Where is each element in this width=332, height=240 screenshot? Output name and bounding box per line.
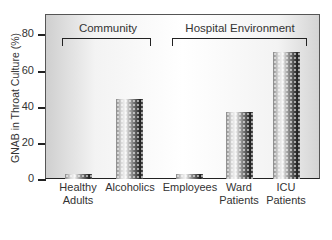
x-label-alcoholics: Alcoholics: [100, 181, 160, 194]
bar-icu-patients: [273, 52, 300, 179]
bar-alcoholics: [116, 99, 143, 179]
y-tick-label-80: 80: [14, 27, 34, 39]
group-bracket-community: [62, 38, 151, 46]
group-bracket-hospital: [172, 38, 307, 46]
x-label-icu-patients: ICU Patients: [256, 181, 316, 207]
bar-ward-patients: [226, 112, 253, 179]
y-tick-label-40: 40: [14, 100, 34, 112]
bar-employees: [176, 174, 203, 179]
y-tick-label-20: 20: [14, 136, 34, 148]
x-label-healthy-adults: Healthy Adults: [48, 181, 108, 207]
group-label-community: Community: [78, 22, 138, 34]
bar-healthy-adults: [65, 174, 92, 179]
y-tick-label-60: 60: [14, 64, 34, 76]
group-label-hospital: Hospital Environment: [175, 22, 305, 34]
y-tick-0: [38, 179, 46, 181]
y-tick-label-0: 0: [14, 172, 34, 184]
